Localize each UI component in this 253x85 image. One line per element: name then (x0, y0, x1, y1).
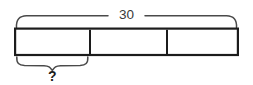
total-brace-left-arm (16, 16, 108, 28)
tape-bar-outline (15, 29, 238, 55)
diagram-canvas: 30 ? (0, 0, 253, 85)
total-brace-right-arm (145, 16, 237, 28)
tape-diagram-figure: 30 ? (0, 0, 253, 85)
total-label: 30 (119, 7, 134, 22)
unknown-label: ? (48, 68, 57, 84)
